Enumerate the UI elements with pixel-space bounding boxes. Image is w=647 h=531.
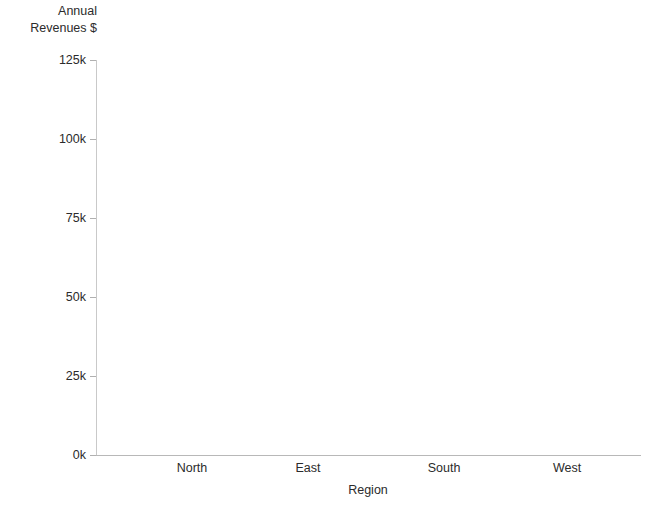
y-tick-mark-75k — [90, 218, 96, 219]
y-tick-label-25k: 25k — [0, 370, 86, 383]
y-axis-title: Annual Revenues $ — [0, 3, 97, 37]
plot-area — [97, 60, 641, 455]
x-category-label-east: East — [295, 461, 320, 475]
y-tick-mark-100k — [90, 139, 96, 140]
y-tick-label-125k: 125k — [0, 54, 86, 67]
y-tick-label-0k: 0k — [0, 449, 86, 462]
y-tick-mark-125k — [90, 60, 96, 61]
y-tick-label-100k: 100k — [0, 133, 86, 146]
x-axis-title: Region — [348, 483, 388, 497]
y-tick-label-50k: 50k — [0, 291, 86, 304]
x-category-label-south: South — [428, 461, 461, 475]
x-category-label-north: North — [177, 461, 208, 475]
chart-container: Annual Revenues $ 125k 100k 75k 50k 25k … — [0, 0, 647, 531]
y-tick-label-75k: 75k — [0, 212, 86, 225]
y-axis-title-line-1: Annual — [0, 3, 97, 20]
x-category-label-west: West — [553, 461, 581, 475]
x-axis-line — [96, 455, 641, 456]
y-axis-title-line-2: Revenues $ — [0, 20, 97, 37]
y-tick-mark-0k — [90, 455, 96, 456]
y-tick-mark-25k — [90, 376, 96, 377]
y-tick-mark-50k — [90, 297, 96, 298]
